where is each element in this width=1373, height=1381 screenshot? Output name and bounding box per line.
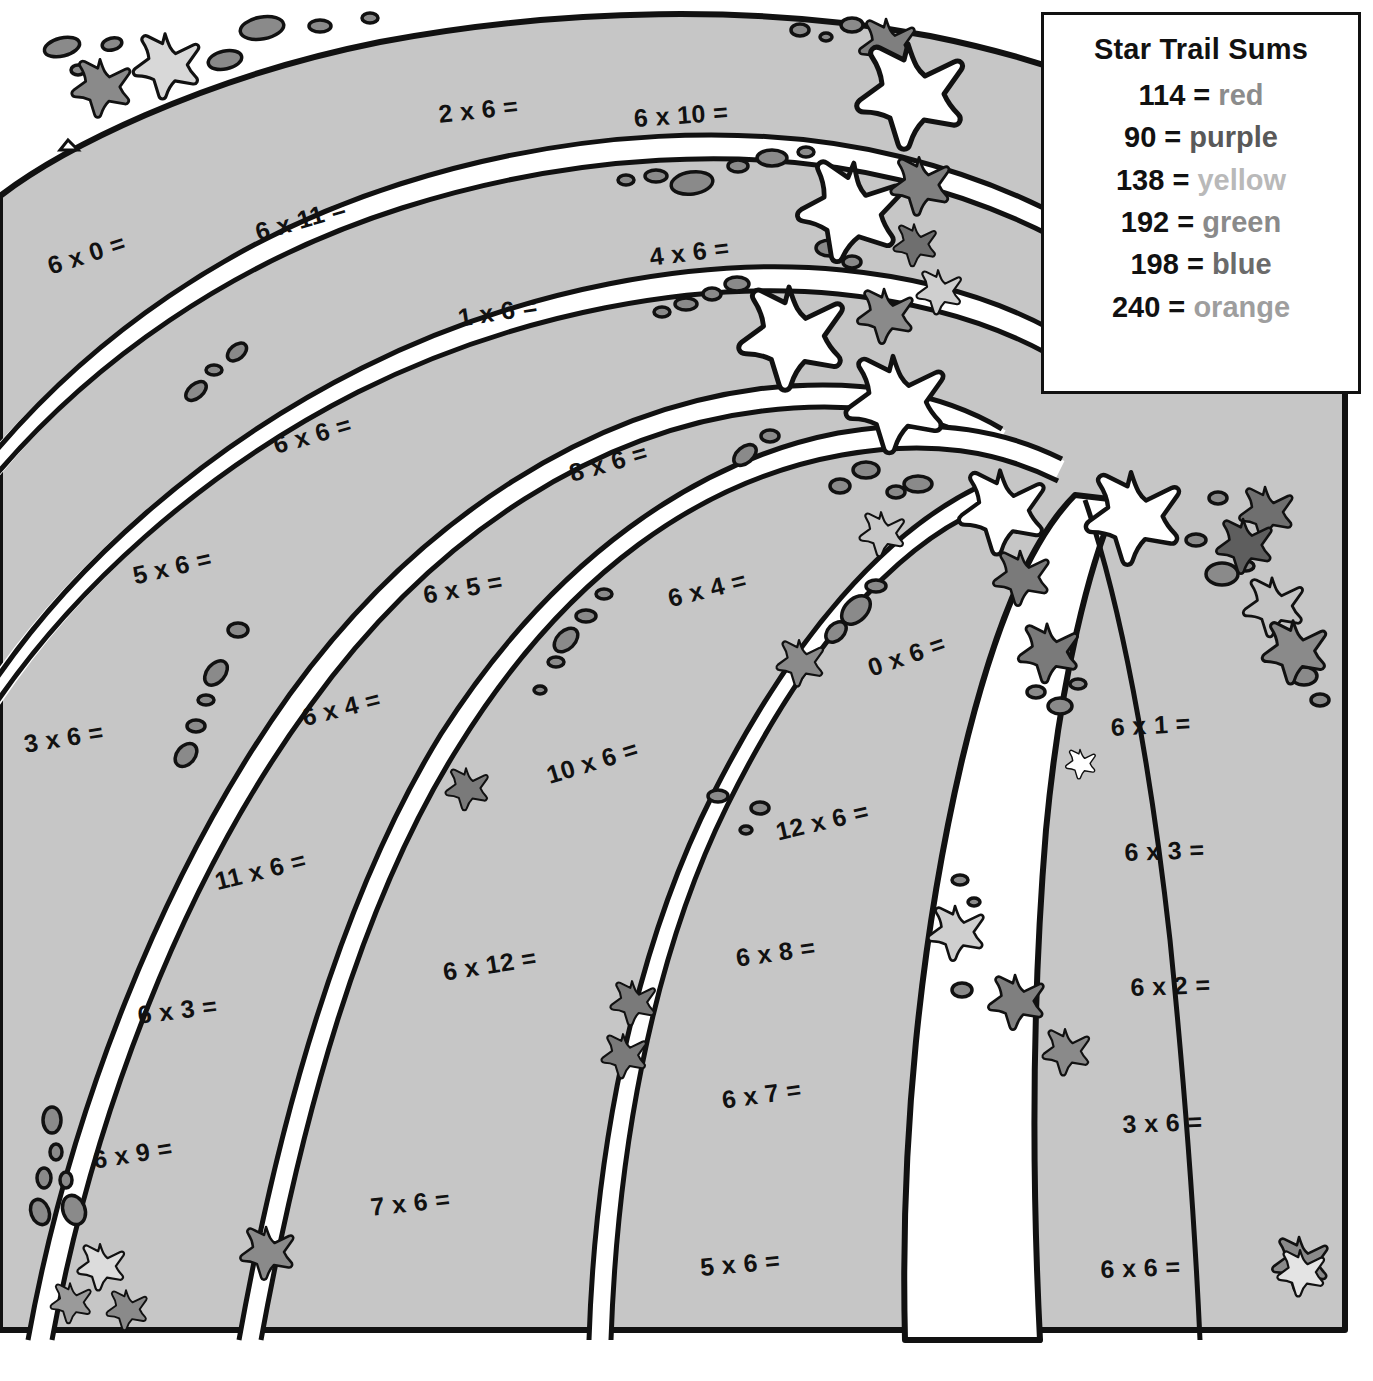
legend-row: 138 = yellow xyxy=(1060,159,1342,201)
legend-row: 192 = green xyxy=(1060,201,1342,243)
legend-equals: = xyxy=(1185,74,1218,116)
legend-sum: 90 xyxy=(1124,116,1156,158)
math-problem: 6 x 3 = xyxy=(1124,835,1205,867)
legend-sum: 138 xyxy=(1116,159,1164,201)
math-problem: 6 x 1 = xyxy=(1110,709,1191,742)
legend-sum: 240 xyxy=(1112,286,1160,328)
legend-sum: 192 xyxy=(1121,201,1169,243)
legend-color-name: blue xyxy=(1212,243,1272,285)
legend-equals: = xyxy=(1164,159,1197,201)
legend-sum: 198 xyxy=(1130,243,1178,285)
legend-color-name: purple xyxy=(1189,116,1278,158)
legend-row: 114 = red xyxy=(1060,74,1342,116)
legend-equals: = xyxy=(1160,286,1193,328)
legend-color-name: green xyxy=(1202,201,1281,243)
legend-sum: 114 xyxy=(1139,74,1186,116)
legend-row: 90 = purple xyxy=(1060,116,1342,158)
math-problem: 6 x 6 = xyxy=(1100,1252,1181,1284)
math-problem: 3 x 6 = xyxy=(1122,1107,1203,1139)
legend-equals: = xyxy=(1179,243,1212,285)
legend-title: Star Trail Sums xyxy=(1060,33,1342,66)
legend-equals: = xyxy=(1156,116,1189,158)
legend-row: 198 = blue xyxy=(1060,243,1342,285)
star-grey xyxy=(72,59,130,117)
legend-box: Star Trail Sums 114 = red 90 = purple 13… xyxy=(1041,12,1361,394)
math-problem: 6 x 2 = xyxy=(1130,970,1211,1002)
legend-color-name: orange xyxy=(1193,286,1290,328)
worksheet-page: Star Trail Sums 114 = red 90 = purple 13… xyxy=(0,0,1373,1381)
legend-color-name: yellow xyxy=(1197,159,1286,201)
legend-row: 240 = orange xyxy=(1060,286,1342,328)
star-yellow xyxy=(133,34,199,99)
notch xyxy=(60,140,78,150)
legend-equals: = xyxy=(1169,201,1202,243)
legend-color-name: red xyxy=(1218,74,1263,116)
